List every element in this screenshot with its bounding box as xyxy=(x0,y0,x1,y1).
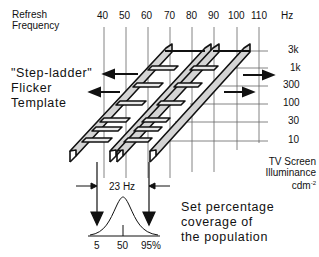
template-label: "Step-ladder" Flicker Template xyxy=(11,66,92,111)
percentile-tick: 95% xyxy=(141,240,161,251)
x-tick: 100 xyxy=(228,10,245,21)
x-tick: 50 xyxy=(119,10,130,21)
x-tick: 40 xyxy=(97,10,108,21)
x-tick: 110 xyxy=(251,10,267,21)
x-tick: 60 xyxy=(141,10,152,21)
percentile-tick: 5 xyxy=(94,240,100,251)
x-tick: 70 xyxy=(164,10,175,21)
coverage-arrows xyxy=(91,162,155,225)
coverage-caption: Set percentage coverage of the populatio… xyxy=(181,200,274,245)
illuminance-axis-label: TV Screen Illuminance cdm-2 xyxy=(258,156,316,191)
template-arrows-right xyxy=(224,71,273,96)
y-tick: 300 xyxy=(283,79,300,90)
x-tick: 90 xyxy=(208,10,219,21)
y-tick: 30 xyxy=(288,115,299,126)
percentile-tick: 50 xyxy=(117,240,128,251)
x-axis-unit: Hz xyxy=(281,10,293,21)
x-tick: 80 xyxy=(186,10,197,21)
bandwidth-label: 23 Hz xyxy=(109,181,135,192)
refresh-frequency-label: Refresh Frequency xyxy=(12,9,59,31)
y-tick: 100 xyxy=(283,97,300,108)
y-tick: 3k xyxy=(288,44,299,55)
y-tick: 1k xyxy=(290,62,301,73)
y-tick: 10 xyxy=(288,134,299,145)
